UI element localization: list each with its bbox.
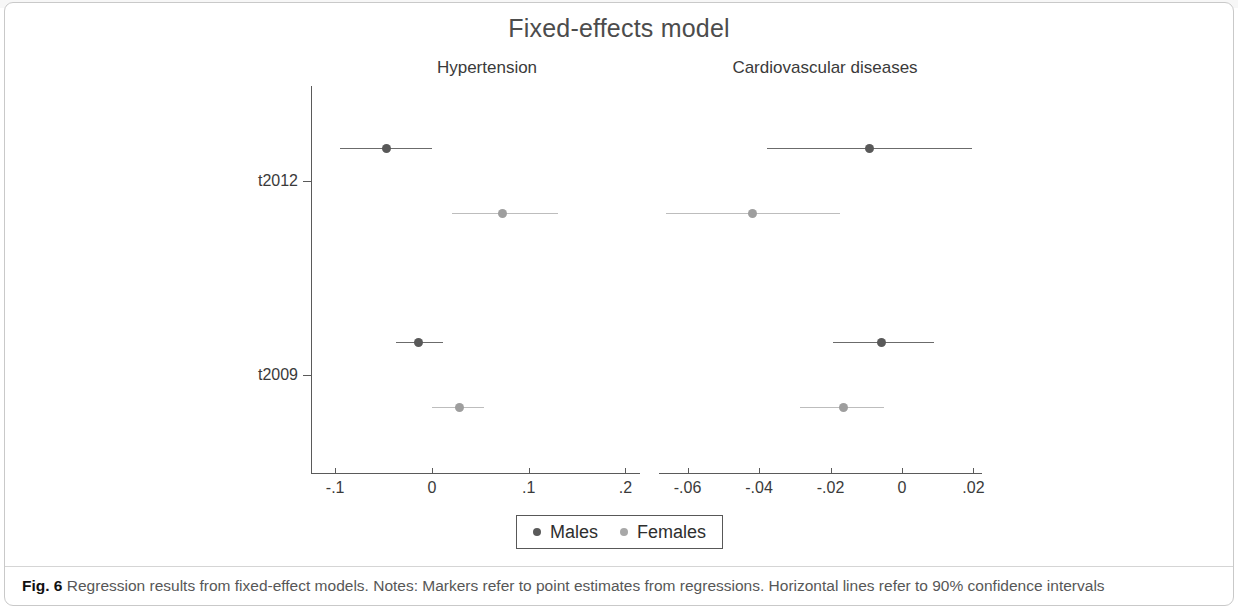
legend-marker-icon-females [620, 528, 628, 536]
figure-caption-label: Fig. 6 [22, 577, 62, 594]
x-axis-tick-label: -.06 [648, 479, 728, 497]
y-axis-label-t2009: t2009 [180, 366, 298, 384]
panel-title-cardiovascular: Cardiovascular diseases [650, 58, 1000, 78]
data-point-marker [877, 338, 886, 347]
panel-title-hypertension: Hypertension [312, 58, 662, 78]
data-point-marker [748, 209, 757, 218]
x-axis-tick-label: -.1 [295, 479, 375, 497]
data-point-marker [839, 403, 848, 412]
figure-container: Fixed-effects model Hypertension Cardiov… [0, 0, 1238, 611]
legend-label-males: Males [550, 522, 598, 543]
x-axis-tick [973, 468, 974, 474]
data-point-marker [455, 403, 464, 412]
x-axis-tick [432, 468, 433, 474]
x-axis-line-right [659, 473, 982, 474]
data-point-marker [414, 338, 423, 347]
x-axis-tick [902, 468, 903, 474]
x-axis-tick [625, 468, 626, 474]
x-axis-line-left [311, 473, 640, 474]
y-axis-label-text: t2009 [258, 366, 298, 384]
x-axis-tick-label: 0 [392, 479, 472, 497]
legend-label-females: Females [637, 522, 706, 543]
caption-divider [5, 566, 1233, 567]
data-point-marker [498, 209, 507, 218]
y-axis-tick-t2009 [303, 375, 311, 376]
x-axis-tick [688, 468, 689, 474]
data-point-marker [865, 144, 874, 153]
y-axis-tick-t2012 [303, 181, 311, 182]
x-axis-tick [831, 468, 832, 474]
x-axis-tick-label: .02 [933, 479, 1013, 497]
data-point-marker [382, 144, 391, 153]
y-axis-spine [311, 86, 312, 474]
x-axis-tick [759, 468, 760, 474]
x-axis-tick-label: 0 [862, 479, 942, 497]
figure-caption: Fig. 6 Regression results from fixed-eff… [22, 577, 1222, 595]
y-axis-label-text: t2012 [258, 172, 298, 190]
x-axis-tick [335, 468, 336, 474]
chart-plot-area: Fixed-effects model Hypertension Cardiov… [0, 0, 1238, 566]
figure-caption-text: Regression results from fixed-effect mod… [67, 577, 1105, 594]
x-axis-tick [529, 468, 530, 474]
x-axis-tick-label: .1 [489, 479, 569, 497]
x-axis-tick-label: -.04 [719, 479, 799, 497]
chart-legend: Males Females [516, 515, 723, 549]
legend-item-males: Males [533, 522, 598, 543]
y-axis-label-t2012: t2012 [180, 172, 298, 190]
x-axis-tick-label: -.02 [791, 479, 871, 497]
legend-marker-icon-males [533, 528, 541, 536]
chart-title: Fixed-effects model [0, 14, 1238, 43]
legend-item-females: Females [620, 522, 706, 543]
